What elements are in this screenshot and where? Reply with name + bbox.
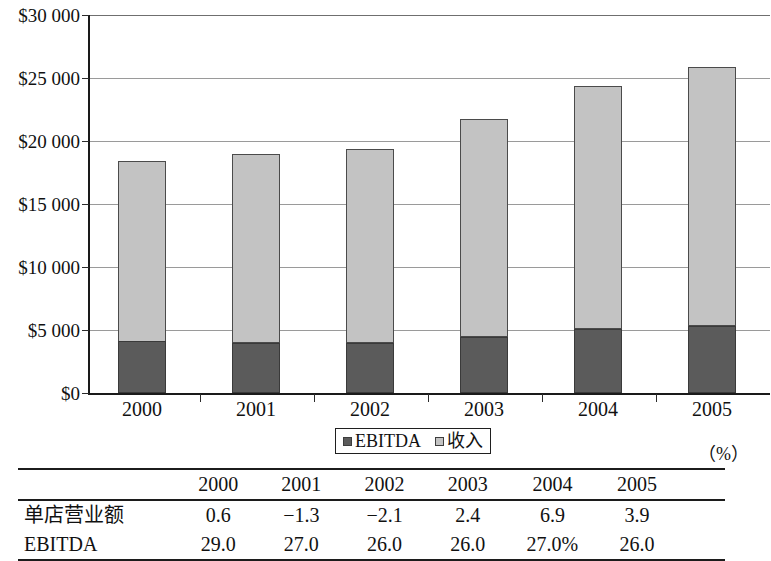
bar-2000 [118, 161, 166, 393]
xtick-mark-3 [428, 394, 429, 402]
ytick-label-10000: $10 000 [0, 258, 80, 277]
gridline-20000 [88, 141, 770, 142]
table-cell-ebitda-2005: 26.0 [595, 530, 678, 560]
ytick-label-0: $0 [0, 384, 80, 403]
ytick-label-20000: $20 000 [0, 132, 80, 151]
table-cell-ebitda-2000: 29.0 [177, 530, 260, 560]
xtick-label-2002: 2002 [326, 398, 414, 420]
bar-2001 [232, 154, 280, 393]
table-cell-same-store-sales-2000: 0.6 [177, 500, 260, 530]
xtick-label-2005: 2005 [668, 398, 756, 420]
legend-entry-revenue[interactable]: 收入 [435, 432, 483, 450]
bar-2005 [688, 67, 736, 393]
table-cell-same-store-sales-2005: 3.9 [595, 500, 678, 530]
bar-segment-revenue-2000 [118, 161, 166, 342]
gridline-30000 [88, 15, 770, 16]
legend-swatch-ebitda [343, 437, 352, 446]
table-col-2005: 2005 [595, 469, 678, 500]
table-col-2001: 2001 [260, 469, 343, 500]
xtick-label-2000: 2000 [98, 398, 186, 420]
ytick-mark-15000 [82, 204, 89, 205]
bar-segment-ebitda-2005 [688, 326, 736, 393]
bar-segment-revenue-2001 [232, 154, 280, 343]
table-cell-ebitda-2001: 27.0 [260, 530, 343, 560]
table-header-row: 2000 2001 2002 2003 2004 2005 [18, 469, 725, 500]
gridline-5000 [88, 330, 770, 331]
data-table: 2000 2001 2002 2003 2004 2005 单店营业额 0.6 … [18, 468, 725, 561]
table-cell-ebitda-2003: 26.0 [426, 530, 509, 560]
bar-segment-revenue-2002 [346, 149, 394, 343]
ytick-label-15000: $15 000 [0, 195, 80, 214]
table-cell-spacer [679, 530, 725, 560]
ytick-label-25000: $25 000 [0, 69, 80, 88]
table-corner-cell [18, 469, 177, 500]
table-col-2004: 2004 [509, 469, 595, 500]
xtick-mark-2 [314, 394, 315, 402]
xtick-mark-4 [542, 394, 543, 402]
xtick-mark-1 [200, 394, 201, 402]
bar-segment-revenue-2004 [574, 86, 622, 329]
bar-segment-ebitda-2002 [346, 343, 394, 393]
legend-label-ebitda: EBITDA [355, 432, 421, 450]
bar-segment-ebitda-2003 [460, 337, 508, 393]
axis-baseline [88, 393, 770, 395]
table-col-spacer [679, 469, 725, 500]
table-cell-spacer [679, 500, 725, 530]
ytick-mark-25000 [82, 78, 89, 79]
ytick-mark-5000 [82, 330, 89, 331]
bar-segment-revenue-2003 [460, 119, 508, 337]
table-cell-same-store-sales-2002: −2.1 [343, 500, 426, 530]
bar-2003 [460, 119, 508, 393]
table-cell-ebitda-2002: 26.0 [343, 530, 426, 560]
legend-swatch-revenue [435, 437, 444, 446]
table-col-2002: 2002 [343, 469, 426, 500]
xtick-label-2004: 2004 [554, 398, 642, 420]
legend-entry-ebitda[interactable]: EBITDA [343, 432, 421, 450]
units-note: （%） [698, 444, 749, 464]
chart-legend: EBITDA 收入 [335, 428, 491, 454]
bar-segment-ebitda-2000 [118, 341, 166, 393]
table-col-2000: 2000 [177, 469, 260, 500]
ytick-label-5000: $5 000 [0, 321, 80, 340]
table-cell-ebitda-2004: 27.0% [509, 530, 595, 560]
table-cell-same-store-sales-2004: 6.9 [509, 500, 595, 530]
bar-2002 [346, 149, 394, 393]
bar-segment-ebitda-2004 [574, 329, 622, 393]
gridline-25000 [88, 78, 770, 79]
xtick-label-2003: 2003 [440, 398, 528, 420]
ytick-mark-0 [82, 393, 89, 394]
bar-2004 [574, 86, 622, 393]
gridline-10000 [88, 267, 770, 268]
stacked-bar-chart: $30 000 $25 000 $20 000 $15 000 $10 000 … [0, 0, 771, 455]
bar-segment-ebitda-2001 [232, 343, 280, 393]
gridline-15000 [88, 204, 770, 205]
table-cell-same-store-sales-2001: −1.3 [260, 500, 343, 530]
table-row: EBITDA 29.0 27.0 26.0 26.0 27.0% 26.0 [18, 530, 725, 560]
xtick-label-2001: 2001 [212, 398, 300, 420]
table-row: 单店营业额 0.6 −1.3 −2.1 2.4 6.9 3.9 [18, 500, 725, 530]
ytick-mark-20000 [82, 141, 89, 142]
ytick-mark-30000 [82, 15, 89, 16]
ytick-mark-10000 [82, 267, 89, 268]
table-row-label-ebitda: EBITDA [18, 530, 177, 560]
table-col-2003: 2003 [426, 469, 509, 500]
table-cell-same-store-sales-2003: 2.4 [426, 500, 509, 530]
bar-segment-revenue-2005 [688, 67, 736, 326]
table-row-label-same-store-sales: 单店营业额 [18, 500, 177, 530]
legend-label-revenue: 收入 [447, 432, 483, 450]
y-axis-line [88, 15, 90, 395]
ytick-label-30000: $30 000 [0, 6, 80, 25]
xtick-mark-5 [656, 394, 657, 402]
